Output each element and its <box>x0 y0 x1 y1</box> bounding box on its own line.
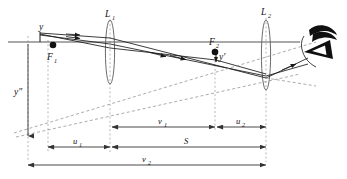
ray-middle-lower <box>110 48 216 60</box>
label-dim-u1: u <box>73 136 77 146</box>
construction-lower <box>16 74 300 137</box>
arrow-incident-2 <box>66 37 80 39</box>
label-dim-v1-subscript: 1 <box>164 121 167 128</box>
ray-bundle <box>40 33 308 78</box>
dimension-lines <box>28 127 266 165</box>
label-focus2: F <box>208 37 215 47</box>
ray-middle-center <box>110 44 266 76</box>
label-y-double-prime: y″ <box>13 87 23 97</box>
label-dim-u2-subscript: 2 <box>242 121 245 128</box>
label-lens2: L <box>260 7 266 17</box>
label-dim-v1: v <box>158 116 162 126</box>
vertical-guide-lines <box>28 18 266 162</box>
lens-group <box>105 20 270 90</box>
label-dim-S: S <box>184 136 189 146</box>
label-dim-v2: v <box>142 154 146 164</box>
label-lens2-subscript: 2 <box>268 12 271 19</box>
construction-tail <box>266 78 316 86</box>
ray-exit-lower <box>266 64 308 76</box>
focal-point-F2 <box>212 49 219 56</box>
eye-brow-shape-2 <box>312 32 337 42</box>
label-dim-v2-subscript: 2 <box>148 159 151 166</box>
label-dim-u2: u <box>236 116 240 126</box>
label-focus2-subscript: 2 <box>216 42 219 49</box>
observer-eye-icon <box>301 25 337 67</box>
label-focus1-subscript: 1 <box>54 57 57 64</box>
diagram-canvas: y″ L 1 L 2 F 1 F 2 y y′ u 1 v 1 <box>0 0 347 179</box>
label-focus1: F <box>46 52 53 62</box>
label-dim-u1-subscript: 1 <box>79 141 82 148</box>
label-lens1-subscript: 1 <box>112 14 115 21</box>
focal-point-F1 <box>50 42 57 49</box>
optics-ray-diagram: y″ L 1 L 2 F 1 F 2 y y′ u 1 v 1 <box>0 0 347 179</box>
label-lens1: L <box>104 9 110 19</box>
ray-incident-upper <box>40 33 110 38</box>
label-image-y-prime: y′ <box>218 52 226 62</box>
label-object-y: y <box>38 22 44 32</box>
ray-middle-upper <box>110 38 266 78</box>
lens-L2 <box>261 20 270 90</box>
